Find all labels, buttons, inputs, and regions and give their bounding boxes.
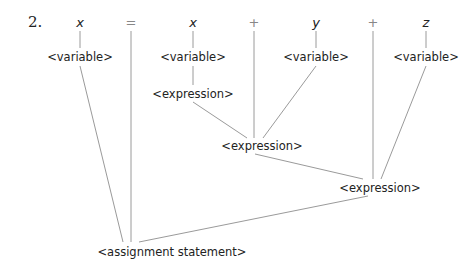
token-z: z: [423, 15, 430, 30]
node-expression-3: <expression>: [339, 181, 420, 195]
token-plus2: +: [368, 15, 379, 30]
token-y: y: [312, 15, 320, 30]
node-variable-2: <variable>: [160, 50, 226, 64]
token-x2: x: [189, 15, 197, 30]
token-equals: =: [126, 15, 137, 30]
parse-tree-edges: [0, 0, 475, 270]
node-variable-4: <variable>: [393, 50, 459, 64]
node-expression-2: <expression>: [221, 139, 302, 153]
token-plus1: +: [249, 15, 260, 30]
node-expression-1: <expression>: [152, 87, 233, 101]
node-variable-3: <variable>: [283, 50, 349, 64]
node-variable-1: <variable>: [47, 50, 113, 64]
node-assignment-statement: <assignment statement>: [97, 245, 246, 259]
token-x1: x: [76, 15, 84, 30]
item-number: 2.: [28, 13, 42, 31]
